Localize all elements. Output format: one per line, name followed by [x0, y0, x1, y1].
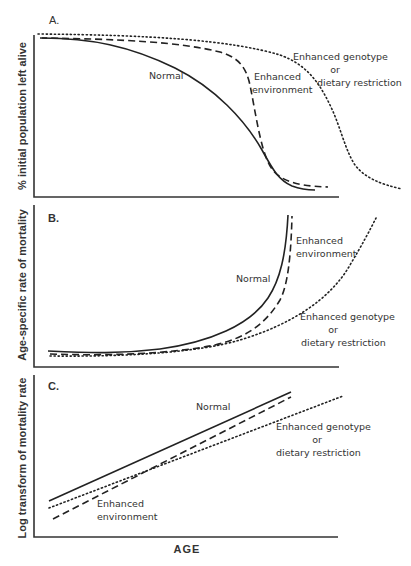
survival-mortality-figure: A. % initial population left alive Norma…: [0, 0, 411, 566]
panel-c-normal-curve: [49, 392, 291, 501]
panel-a-enhanced-genotype-label-3: dietary restriction: [317, 77, 402, 88]
panel-b: B. Age-specific rate of mortality Normal…: [16, 205, 395, 367]
panel-a-y-axis-label: % initial population left alive: [16, 42, 28, 190]
panel-b-enhanced-environment-label-2: environment: [296, 248, 357, 259]
x-axis-label: AGE: [174, 543, 201, 555]
panel-c-normal-label: Normal: [196, 401, 230, 412]
panel-a-enhanced-environment-label-1: Enhanced: [254, 71, 301, 82]
panel-c-enhanced-genotype-label-3: dietary restriction: [276, 447, 361, 458]
panel-b-enhanced-environment-label-1: Enhanced: [296, 235, 343, 246]
panel-a-label: A.: [49, 14, 59, 26]
panel-a-enhanced-genotype-label-1: Enhanced genotype: [293, 51, 388, 62]
panel-b-enhanced-genotype-label-1: Enhanced genotype: [300, 311, 395, 322]
panel-c-enhanced-environment-curve: [53, 397, 291, 519]
panel-b-label: B.: [48, 212, 59, 224]
panel-b-axes: [34, 205, 339, 367]
panel-b-enhanced-genotype-label-2: or: [328, 324, 338, 335]
panel-a: A. % initial population left alive Norma…: [16, 14, 402, 197]
panel-c-enhanced-environment-label-1: Enhanced: [97, 498, 144, 509]
panel-c-label: C.: [48, 380, 59, 392]
panel-a-normal-label: Normal: [149, 70, 183, 81]
panel-c-enhanced-genotype-label-2: or: [312, 434, 322, 445]
panel-c-enhanced-genotype-label-1: Enhanced genotype: [276, 421, 371, 432]
panel-b-normal-label: Normal: [236, 273, 270, 284]
panel-c: C. Log transform of mortality rate Norma…: [16, 375, 371, 555]
panel-a-normal-curve: [42, 38, 315, 190]
panel-a-enhanced-environment-label-2: environment: [252, 84, 313, 95]
panel-a-enhanced-genotype-label-2: or: [330, 64, 340, 75]
panel-c-y-axis-label: Log transform of mortality rate: [16, 378, 28, 539]
panel-a-enhanced-environment-curve: [40, 38, 328, 187]
panel-b-enhanced-environment-curve: [50, 216, 292, 355]
panel-b-y-axis-label: Age-specific rate of mortality: [16, 208, 28, 360]
panel-b-enhanced-genotype-label-3: dietary restriction: [301, 337, 386, 348]
panel-c-enhanced-environment-label-2: environment: [97, 511, 158, 522]
